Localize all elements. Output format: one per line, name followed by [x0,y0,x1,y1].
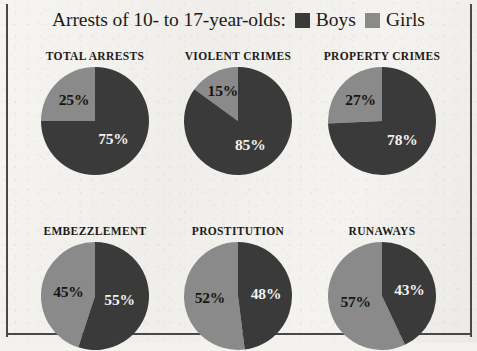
pie-panel-title: EMBEZZLEMENT [20,225,170,237]
pie-slice-girls [328,67,382,123]
pie-panel-title: VIOLENT CRIMES [163,50,313,62]
frame-rule-right [470,4,472,337]
chart-header: Arrests of 10- to 17-year-olds: Boys Gir… [0,6,477,34]
pie-panel-title: RUNAWAYS [307,225,457,237]
pie-panel-title: TOTAL ARRESTS [20,50,170,62]
pie-chart: 45%55% [40,241,150,351]
page-title: Arrests of 10- to 17-year-olds: [52,9,286,31]
pie-panel: TOTAL ARRESTS25%75% [20,50,170,176]
frame-rule-left [6,4,8,337]
legend-item-girls: Girls [365,9,425,31]
pie-panel: RUNAWAYS57%43% [307,225,457,351]
legend-item-boys: Boys [295,9,356,31]
pie-panel-title: PROSTITUTION [163,225,313,237]
legend-swatch-boys [295,13,310,28]
pie-panel: EMBEZZLEMENT45%55% [20,225,170,351]
pie-panel: VIOLENT CRIMES15%85% [163,50,313,176]
legend-swatch-girls [365,13,380,28]
pie-chart: 15%85% [183,66,293,176]
pie-panel: PROSTITUTION52%48% [163,225,313,351]
pie-chart: 25%75% [40,66,150,176]
pie-chart: 27%78% [327,66,437,176]
pie-panel-title: PROPERTY CRIMES [307,50,457,62]
pie-chart: 57%43% [327,241,437,351]
pie-chart: 52%48% [183,241,293,351]
pie-panel: PROPERTY CRIMES27%78% [307,50,457,176]
pie-slice-girls [41,67,95,121]
legend-label-boys: Boys [316,9,356,31]
pie-slice-girls [184,242,245,350]
pie-slice-boys [238,242,292,350]
legend-label-girls: Girls [386,9,425,31]
